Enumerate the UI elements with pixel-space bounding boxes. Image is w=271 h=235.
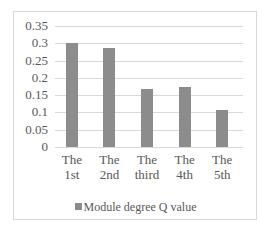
x-tick-label: The5th [202,152,242,182]
x-tick-label-line: 4th [165,167,205,182]
x-tick-label: The2nd [89,152,129,182]
x-tick-label-line: The [165,152,205,167]
legend-label: Module degree Q value [84,200,197,214]
y-tick-label: 0 [8,140,48,154]
y-tick-label: 0.2 [8,71,48,85]
x-tick-label-line: The [202,152,242,167]
bar [103,48,115,147]
gridline [55,43,243,44]
bar [141,89,153,147]
bar [66,43,78,147]
x-tick-label-line: 5th [202,167,242,182]
x-tick-label-line: The [89,152,129,167]
x-tick-label-line: The [127,152,167,167]
bar [216,110,228,147]
x-tick-label: The1st [52,152,92,182]
x-tick-label-line: third [127,167,167,182]
y-tick-label: 0.15 [8,88,48,102]
legend: Module degree Q value [0,200,271,215]
gridline [55,61,243,62]
x-tick-label-line: 1st [52,167,92,182]
y-tick-label: 0.1 [8,105,48,119]
x-tick-label-line: The [52,152,92,167]
x-tick-label: Thethird [127,152,167,182]
y-tick-label: 0.3 [8,36,48,50]
x-tick-label: The4th [165,152,205,182]
bar [179,87,191,147]
y-tick-label: 0.25 [8,54,48,68]
y-tick-label: 0.35 [8,19,48,33]
x-tick-label-line: 2nd [89,167,129,182]
y-tick-label: 0.05 [8,123,48,137]
legend-swatch-icon [75,203,82,210]
plot-area [55,26,243,147]
gridline [55,78,243,79]
gridline [55,26,243,27]
gridline [55,147,243,148]
